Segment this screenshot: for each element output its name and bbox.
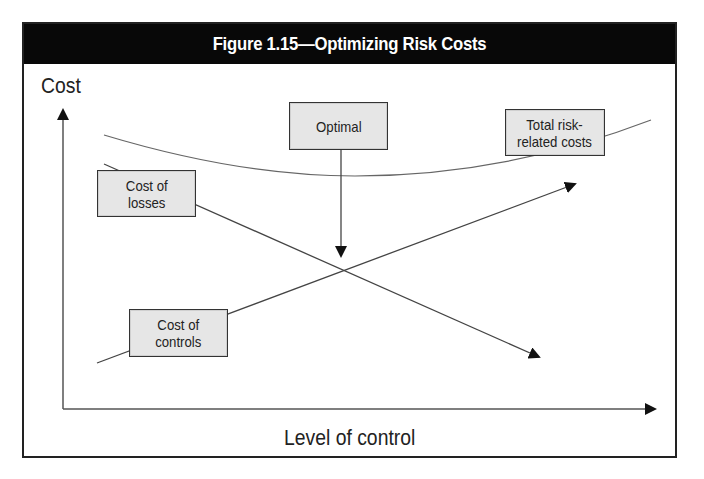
- cost-of-losses-callout: Cost of losses: [97, 170, 196, 217]
- cost-of-controls-callout: Cost of controls: [129, 309, 228, 357]
- optimal-callout: Optimal: [289, 102, 388, 150]
- total-costs-callout: Total risk- related costs: [505, 109, 605, 156]
- x-axis-label: Level of control: [284, 425, 433, 451]
- y-axis-label: Cost: [41, 73, 86, 99]
- diagram-canvas: [0, 0, 704, 479]
